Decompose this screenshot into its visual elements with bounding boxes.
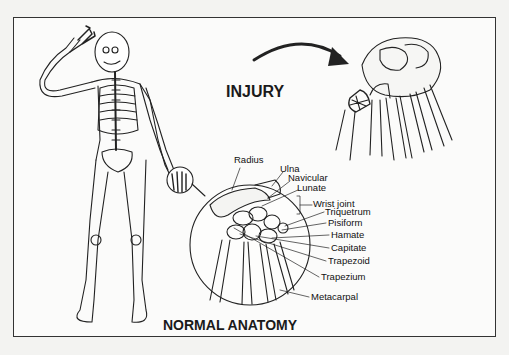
normal-anatomy-title: NORMAL ANATOMY	[163, 318, 297, 332]
label-metacarpal: Metacarpal	[311, 292, 358, 302]
label-radius: Radius	[234, 155, 264, 165]
label-trapezium: Trapezium	[321, 272, 366, 282]
label-triquetrum: Triquetrum	[325, 207, 371, 217]
hand-detail-circle	[167, 167, 193, 193]
label-lunate: Lunate	[297, 183, 326, 193]
label-pisiform: Pisiform	[328, 218, 362, 228]
anatomy-illustration	[0, 0, 509, 355]
label-hamate: Hamate	[331, 230, 364, 240]
label-trapezoid: Trapezoid	[328, 256, 370, 266]
skeleton-figure-icon	[40, 26, 174, 322]
injured-wrist-icon	[336, 38, 452, 160]
label-capitate: Capitate	[331, 243, 366, 253]
injury-title: INJURY	[226, 84, 284, 100]
